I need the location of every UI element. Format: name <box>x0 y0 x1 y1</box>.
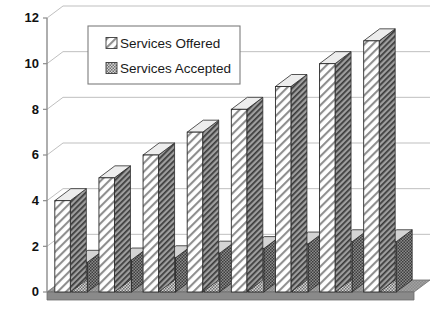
legend-swatch-offered <box>106 38 117 49</box>
chart-legend: Services OfferedServices Accepted <box>88 26 240 84</box>
bar-services-offered <box>364 29 396 292</box>
bar-services-offered <box>275 75 307 293</box>
y-axis-tick-label: 12 <box>25 10 39 25</box>
bar-services-offered <box>143 143 175 292</box>
y-axis-tick-label: 10 <box>25 56 39 71</box>
legend-label-offered: Services Offered <box>120 36 220 51</box>
chart-canvas: 024681012 Services OfferedServices Accep… <box>0 0 430 313</box>
legend-swatch-accepted <box>106 63 117 74</box>
y-axis-tick-label: 8 <box>32 102 39 117</box>
y-axis-tick-label: 4 <box>32 193 40 208</box>
y-axis-labels: 024681012 <box>25 10 40 299</box>
bar-services-offered <box>231 97 263 292</box>
y-axis <box>43 18 47 292</box>
bar-services-offered <box>55 189 87 292</box>
bar-chart: 024681012 Services OfferedServices Accep… <box>0 0 430 313</box>
y-axis-tick-label: 6 <box>32 147 39 162</box>
legend-label-accepted: Services Accepted <box>120 61 231 76</box>
bar-services-offered <box>99 166 131 292</box>
bar-services-offered <box>320 52 352 292</box>
y-axis-tick-label: 0 <box>32 284 39 299</box>
y-axis-tick-label: 2 <box>32 239 39 254</box>
bar-services-offered <box>187 120 219 292</box>
